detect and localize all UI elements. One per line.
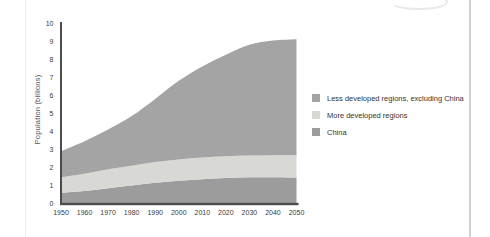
legend-label: Less developed regions, excluding China bbox=[327, 94, 464, 103]
x-tick-label: 1970 bbox=[100, 209, 116, 216]
y-tick-label: 10 bbox=[46, 20, 54, 27]
x-tick-label: 2000 bbox=[171, 209, 187, 216]
y-tick-label: 8 bbox=[50, 56, 54, 63]
legend-swatch-icon bbox=[312, 94, 320, 102]
chart-legend: Less developed regions, excluding ChinaM… bbox=[312, 94, 464, 145]
y-tick-label: 5 bbox=[50, 110, 54, 117]
y-tick-label: 0 bbox=[50, 200, 54, 207]
population-chart-figure: Population (billions) 012345678910195019… bbox=[0, 0, 490, 237]
y-tick-label: 7 bbox=[50, 74, 54, 81]
legend-label: More developed regions bbox=[327, 111, 407, 120]
y-axis-line bbox=[60, 22, 62, 205]
x-tick-label: 2050 bbox=[289, 209, 305, 216]
y-tick-label: 1 bbox=[50, 182, 54, 189]
legend-item: China bbox=[312, 128, 464, 136]
x-axis-line bbox=[60, 203, 299, 205]
x-tick-label: 1990 bbox=[147, 209, 163, 216]
legend-item: Less developed regions, excluding China bbox=[312, 94, 464, 102]
legend-item: More developed regions bbox=[312, 111, 464, 119]
legend-swatch-icon bbox=[312, 111, 320, 119]
y-tick-label: 6 bbox=[50, 92, 54, 99]
x-tick-label: 1960 bbox=[77, 209, 93, 216]
x-tick-label: 1950 bbox=[53, 209, 69, 216]
x-tick-label: 2010 bbox=[195, 209, 211, 216]
y-tick-label: 9 bbox=[50, 38, 54, 45]
legend-label: China bbox=[327, 128, 347, 137]
x-tick-label: 2030 bbox=[242, 209, 258, 216]
x-tick-label: 2040 bbox=[265, 209, 281, 216]
legend-swatch-icon bbox=[312, 128, 320, 136]
x-tick-label: 2020 bbox=[218, 209, 234, 216]
y-tick-label: 2 bbox=[50, 164, 54, 171]
x-tick-label: 1980 bbox=[124, 209, 140, 216]
y-tick-label: 4 bbox=[50, 128, 54, 135]
y-tick-label: 3 bbox=[50, 146, 54, 153]
